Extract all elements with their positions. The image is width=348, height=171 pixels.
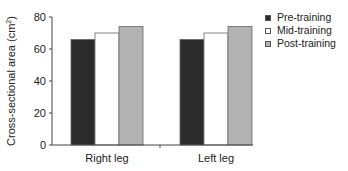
legend-swatch-mid — [265, 28, 271, 34]
y-axis: 020406080 — [34, 11, 52, 151]
bar-post-training — [228, 27, 252, 145]
bars — [71, 27, 252, 145]
bar-mid-training — [95, 33, 119, 145]
y-tick-label: 80 — [34, 11, 46, 23]
x-tick-label: Right leg — [85, 152, 128, 164]
legend-swatch-pre — [265, 15, 271, 21]
legend-item-mid: Mid-training — [265, 24, 336, 37]
y-tick-label: 40 — [34, 75, 46, 87]
legend-item-post: Post-training — [265, 37, 336, 50]
legend: Pre-training Mid-training Post-training — [265, 11, 336, 50]
bar-post-training — [119, 27, 143, 145]
y-tick-label: 20 — [34, 107, 46, 119]
legend-label: Post-training — [277, 37, 336, 50]
legend-swatch-post — [265, 41, 271, 47]
bar-mid-training — [204, 33, 228, 145]
bar-pre-training — [71, 39, 95, 145]
y-tick-label: 60 — [34, 43, 46, 55]
x-axis: Right legLeft leg — [52, 145, 253, 164]
x-tick-label: Left leg — [198, 152, 234, 164]
y-axis-label: Cross-sectional area (cm2) — [5, 16, 17, 146]
legend-item-pre: Pre-training — [265, 11, 336, 24]
y-tick-label: 0 — [40, 139, 46, 151]
legend-label: Mid-training — [277, 24, 332, 37]
bar-pre-training — [180, 39, 204, 145]
legend-label: Pre-training — [277, 11, 331, 24]
